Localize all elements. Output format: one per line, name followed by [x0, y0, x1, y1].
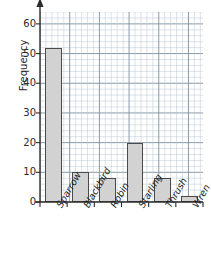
plot-area: [40, 12, 203, 202]
bars-group: [40, 12, 203, 202]
y-axis-tick-labels: 0102030405060: [14, 0, 36, 268]
bar: [45, 48, 62, 202]
x-axis-category-labels: SparrowBlackbirdRobinStarlingThrushWren: [40, 204, 203, 268]
y-tick-label: 50: [16, 49, 36, 59]
bar-chart: Frequency 0102030405060 SparrowBlackbird…: [0, 0, 211, 268]
y-tick-label: 20: [16, 138, 36, 148]
y-tick-label: 40: [16, 78, 36, 88]
y-tick-label: 30: [16, 108, 36, 118]
y-tick-label: 60: [16, 19, 36, 29]
y-tick-label: 10: [16, 167, 36, 177]
y-axis-arrow-icon: [36, 0, 43, 7]
y-tick-label: 0: [16, 197, 36, 207]
